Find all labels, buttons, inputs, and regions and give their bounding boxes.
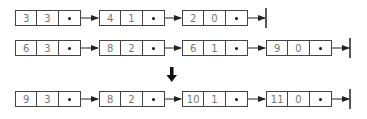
list-node: 2 0 bbox=[182, 10, 248, 26]
list-node: 9 3 bbox=[15, 91, 81, 107]
link-cell bbox=[143, 92, 164, 106]
list-node: 3 3 bbox=[15, 10, 81, 26]
exp-cell: 0 bbox=[288, 92, 309, 106]
pointer-dot-icon bbox=[235, 17, 238, 20]
list-node: 4 1 bbox=[99, 10, 165, 26]
pointer-dot-icon bbox=[152, 17, 155, 20]
link-cell bbox=[59, 41, 80, 55]
link-cell bbox=[310, 41, 331, 55]
link-cell bbox=[226, 41, 247, 55]
link-cell bbox=[143, 11, 164, 25]
link-cell bbox=[226, 11, 247, 25]
link-cell bbox=[143, 41, 164, 55]
exp-cell: 1 bbox=[121, 11, 142, 25]
coef-cell: 9 bbox=[267, 41, 288, 55]
exp-cell: 0 bbox=[204, 11, 225, 25]
coef-cell: 3 bbox=[16, 11, 37, 25]
list-node: 10 1 bbox=[182, 91, 248, 107]
list-node: 8 2 bbox=[99, 91, 165, 107]
coef-cell: 8 bbox=[100, 41, 121, 55]
pointer-dot-icon bbox=[152, 47, 155, 50]
pointer-dot-icon bbox=[68, 17, 71, 20]
coef-cell: 6 bbox=[16, 41, 37, 55]
pointer-dot-icon bbox=[235, 98, 238, 101]
list-node: 11 0 bbox=[266, 91, 332, 107]
pointer-dot-icon bbox=[235, 47, 238, 50]
link-cell bbox=[59, 11, 80, 25]
down-arrow-icon bbox=[170, 67, 174, 76]
coef-cell: 10 bbox=[183, 92, 204, 106]
coef-cell: 6 bbox=[183, 41, 204, 55]
pointer-dot-icon bbox=[152, 98, 155, 101]
list-node: 8 2 bbox=[99, 40, 165, 56]
exp-cell: 3 bbox=[37, 41, 58, 55]
pointer-dot-icon bbox=[68, 47, 71, 50]
link-cell bbox=[59, 92, 80, 106]
link-cell bbox=[226, 92, 247, 106]
exp-cell: 1 bbox=[204, 41, 225, 55]
list-node: 6 1 bbox=[182, 40, 248, 56]
coef-cell: 9 bbox=[16, 92, 37, 106]
link-cell bbox=[310, 92, 331, 106]
coef-cell: 2 bbox=[183, 11, 204, 25]
pointer-dot-icon bbox=[319, 98, 322, 101]
coef-cell: 8 bbox=[100, 92, 121, 106]
exp-cell: 3 bbox=[37, 92, 58, 106]
coef-cell: 4 bbox=[100, 11, 121, 25]
exp-cell: 2 bbox=[121, 41, 142, 55]
list-node: 9 0 bbox=[266, 40, 332, 56]
list-node: 6 3 bbox=[15, 40, 81, 56]
coef-cell: 11 bbox=[267, 92, 288, 106]
exp-cell: 2 bbox=[121, 92, 142, 106]
exp-cell: 0 bbox=[288, 41, 309, 55]
pointer-dot-icon bbox=[68, 98, 71, 101]
exp-cell: 3 bbox=[37, 11, 58, 25]
exp-cell: 1 bbox=[204, 92, 225, 106]
pointer-dot-icon bbox=[319, 47, 322, 50]
